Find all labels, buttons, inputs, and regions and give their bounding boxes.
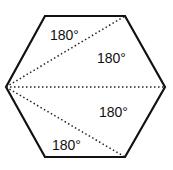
triangle-label-1: 180°	[50, 27, 79, 43]
triangle-label-3: 180°	[99, 104, 128, 120]
hexagon-outline	[6, 16, 165, 157]
triangle-label-4: 180°	[52, 137, 81, 153]
hexagon-diagram: 180° 180° 180° 180°	[0, 0, 173, 170]
triangle-label-2: 180°	[97, 50, 126, 66]
